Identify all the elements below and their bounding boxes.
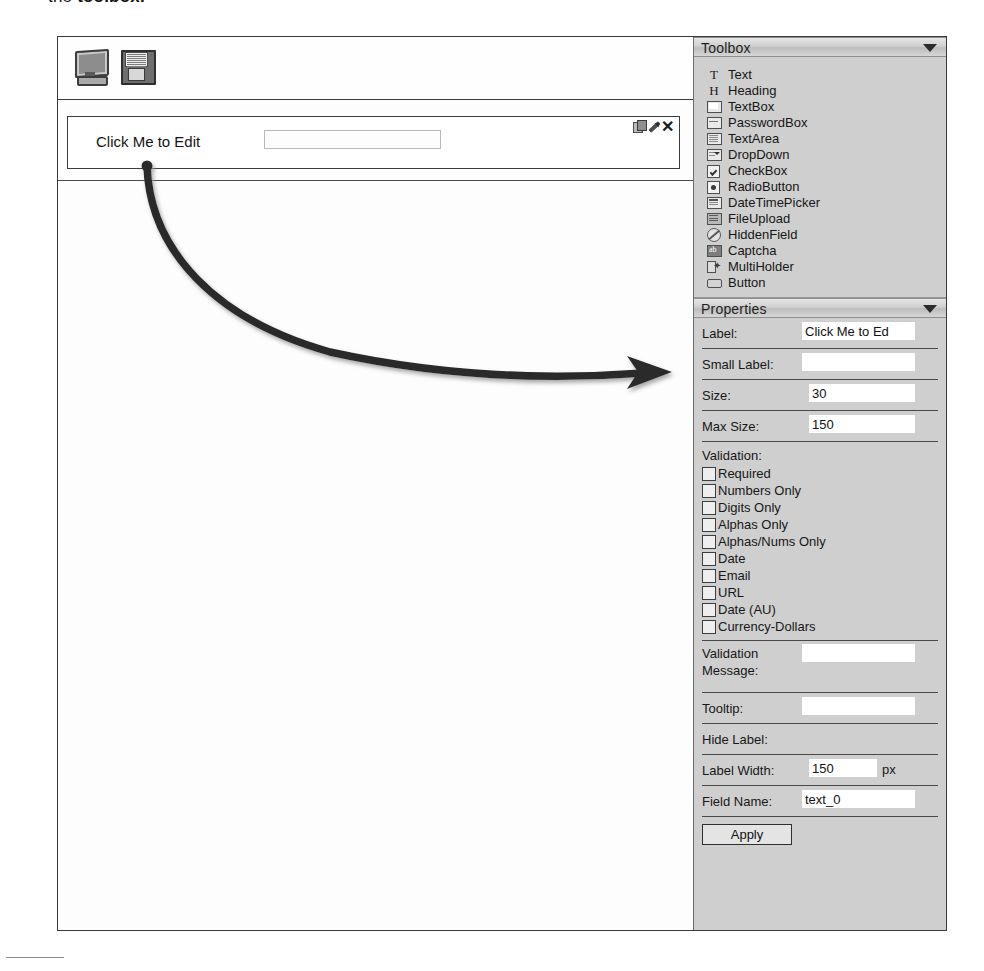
hiddenfield-icon xyxy=(707,228,721,241)
toolbox-header[interactable]: Toolbox xyxy=(694,37,946,57)
caption-text-bold: toolbox. xyxy=(77,0,145,6)
validation-option-label: Date (AU) xyxy=(718,602,776,617)
toolbox-list: T Text H Heading TextBox PasswordBox xyxy=(694,57,946,298)
validation-option-url[interactable]: URL xyxy=(702,584,938,601)
properties-header[interactable]: Properties xyxy=(694,298,946,318)
property-key: Label: xyxy=(702,326,737,341)
checkbox-icon[interactable] xyxy=(702,535,716,549)
fileupload-icon xyxy=(707,212,721,225)
validation-option-email[interactable]: Email xyxy=(702,567,938,584)
toolbox-item-text[interactable]: T Text xyxy=(694,66,946,82)
toolbox-item-label: Text xyxy=(728,67,752,82)
max-size-input[interactable] xyxy=(809,415,915,433)
toolbox-item-button[interactable]: Button xyxy=(694,274,946,290)
toolbox-item-label: Heading xyxy=(728,83,776,98)
label-width-unit: px xyxy=(882,762,896,777)
validation-option-numbers-only[interactable]: Numbers Only xyxy=(702,482,938,499)
checkbox-icon[interactable] xyxy=(702,569,716,583)
toolbox-item-hiddenfield[interactable]: HiddenField xyxy=(694,226,946,242)
heading-glyph-icon: H xyxy=(707,84,721,97)
toolbox-item-label: PasswordBox xyxy=(728,115,807,130)
form-row-actions: ✕ xyxy=(633,120,674,133)
label-input[interactable] xyxy=(802,322,915,340)
toolbox-item-label: Button xyxy=(728,275,766,290)
toolbox-item-fileupload[interactable]: FileUpload xyxy=(694,210,946,226)
apply-button-wrap: Apply xyxy=(694,817,946,845)
validation-option-date[interactable]: Date xyxy=(702,550,938,567)
chevron-down-icon[interactable] xyxy=(923,305,937,313)
validation-option-label: URL xyxy=(718,585,744,600)
checkbox-icon[interactable] xyxy=(702,518,716,532)
toolbox-item-textarea[interactable]: TextArea xyxy=(694,130,946,146)
toolbox-item-checkbox[interactable]: CheckBox xyxy=(694,162,946,178)
small-label-input[interactable] xyxy=(802,353,915,371)
validation-option-label: Required xyxy=(718,466,771,481)
toolbox-item-label: DateTimePicker xyxy=(728,195,820,210)
toolbox-item-heading[interactable]: H Heading xyxy=(694,82,946,98)
property-key: Size: xyxy=(702,388,731,403)
form-editor-pane: Click Me to Edit ✕ xyxy=(58,37,693,930)
pencil-icon[interactable] xyxy=(647,120,660,133)
copy-icon[interactable] xyxy=(633,120,646,133)
form-field-input[interactable] xyxy=(264,130,441,149)
property-row-max-size: Max Size: xyxy=(702,411,938,442)
datetimepicker-icon xyxy=(707,196,721,209)
passwordbox-icon xyxy=(707,116,721,129)
validation-option-digits-only[interactable]: Digits Only xyxy=(702,499,938,516)
toolbox-title: Toolbox xyxy=(701,40,751,56)
checkbox-icon[interactable] xyxy=(702,484,716,498)
caption-strip: the toolbox. xyxy=(0,0,984,14)
properties-title: Properties xyxy=(701,301,767,317)
property-row-field-name: Field Name: xyxy=(702,786,938,817)
toolbox-item-radiobutton[interactable]: RadioButton xyxy=(694,178,946,194)
monitor-icon[interactable] xyxy=(72,49,110,83)
toolbox-item-label: TextArea xyxy=(728,131,779,146)
property-row-small-label: Small Label: xyxy=(702,349,938,380)
field-name-input[interactable] xyxy=(802,790,915,808)
button-icon xyxy=(707,276,721,289)
toolbox-item-captcha[interactable]: ab Captcha xyxy=(694,242,946,258)
validation-option-alphas-only[interactable]: Alphas Only xyxy=(702,516,938,533)
toolbox-item-label: CheckBox xyxy=(728,163,787,178)
close-icon[interactable]: ✕ xyxy=(661,120,674,133)
toolbox-item-multiholder[interactable]: ✦ MultiHolder xyxy=(694,258,946,274)
apply-button[interactable]: Apply xyxy=(702,824,792,845)
toolbox-item-label: MultiHolder xyxy=(728,259,794,274)
toolbox-item-datetimepicker[interactable]: DateTimePicker xyxy=(694,194,946,210)
label-width-input[interactable] xyxy=(809,759,877,777)
multiholder-icon: ✦ xyxy=(707,260,721,273)
validation-option-alphas-nums-only[interactable]: Alphas/Nums Only xyxy=(702,533,938,550)
validation-option-currency-dollars[interactable]: Currency-Dollars xyxy=(702,618,938,635)
checkbox-icon[interactable] xyxy=(702,620,716,634)
validation-option-label: Alphas Only xyxy=(718,517,788,532)
form-canvas[interactable] xyxy=(58,180,693,930)
form-field-label[interactable]: Click Me to Edit xyxy=(96,133,200,150)
property-key: Hide Label: xyxy=(702,732,768,747)
monitor-base xyxy=(77,76,108,86)
validation-option-required[interactable]: Required xyxy=(702,465,938,482)
checkbox-icon[interactable] xyxy=(702,552,716,566)
footnote-rule xyxy=(6,957,64,958)
caption-text: the toolbox. xyxy=(48,0,145,7)
checkbox-icon[interactable] xyxy=(702,501,716,515)
checkbox-icon[interactable] xyxy=(702,467,716,481)
validation-option-date-au[interactable]: Date (AU) xyxy=(702,601,938,618)
form-field-row[interactable]: Click Me to Edit ✕ xyxy=(67,116,680,169)
tooltip-input[interactable] xyxy=(802,697,915,715)
toolbox-item-passwordbox[interactable]: PasswordBox xyxy=(694,114,946,130)
validation-message-input[interactable] xyxy=(802,644,915,662)
validation-option-label: Date xyxy=(718,551,745,566)
property-row-label: Label: xyxy=(702,318,938,349)
editor-toolbar-icons xyxy=(72,49,154,83)
property-key-line1: Validation xyxy=(702,646,758,661)
toolbox-item-textbox[interactable]: TextBox xyxy=(694,98,946,114)
textbox-icon xyxy=(707,100,721,113)
chevron-down-icon[interactable] xyxy=(923,44,937,52)
property-row-label-width: Label Width: px xyxy=(702,755,938,786)
toolbox-item-dropdown[interactable]: DropDown xyxy=(694,146,946,162)
size-input[interactable] xyxy=(809,384,915,402)
floppy-disk-icon[interactable] xyxy=(120,49,154,83)
checkbox-icon[interactable] xyxy=(702,603,716,617)
checkbox-icon[interactable] xyxy=(702,586,716,600)
property-key: Field Name: xyxy=(702,794,772,809)
